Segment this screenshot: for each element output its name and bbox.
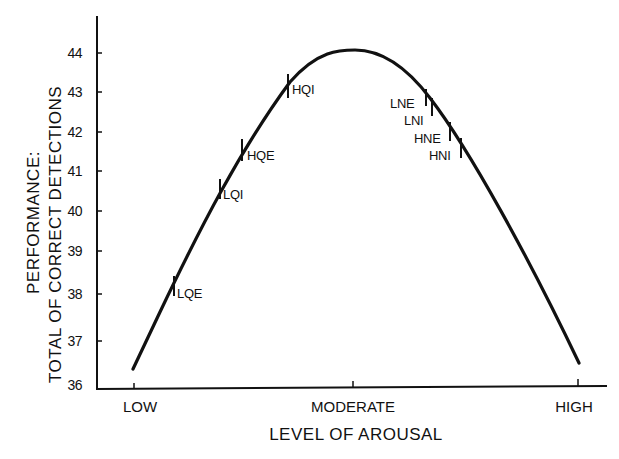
x-tick-high: HIGH bbox=[555, 398, 593, 415]
performance-curve bbox=[133, 50, 579, 369]
point-label-lni: LNI bbox=[404, 113, 423, 128]
point-label-hqi: HQI bbox=[292, 82, 314, 97]
y-tick-44: 44 bbox=[52, 45, 82, 61]
point-markers bbox=[174, 74, 461, 296]
y-axis-title-line2: TOTAL OF CORRECT DETECTIONS bbox=[46, 86, 66, 383]
point-label-hni: HNI bbox=[429, 148, 451, 163]
x-tick-moderate: MODERATE bbox=[311, 398, 395, 415]
point-label-lqe: LQE bbox=[177, 286, 202, 301]
point-label-hqe: HQE bbox=[247, 148, 274, 163]
x-axis bbox=[96, 386, 607, 389]
point-label-lne: LNE bbox=[390, 96, 414, 111]
point-label-lqi: LQI bbox=[223, 187, 243, 202]
x-tick-low: LOW bbox=[123, 398, 157, 415]
x-axis-title: LEVEL OF AROUSAL bbox=[269, 425, 443, 445]
y-axis-title-line1: PERFORMANCE: bbox=[24, 151, 44, 294]
chart-canvas bbox=[0, 0, 619, 459]
point-label-hne: HNE bbox=[414, 131, 441, 146]
